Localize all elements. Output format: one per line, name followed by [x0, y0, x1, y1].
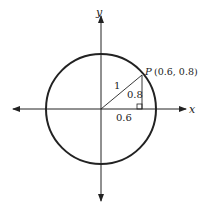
point-coords-label: (0.6, 0.8)	[154, 66, 198, 77]
point-name-label: P	[144, 66, 152, 77]
horizontal-label: 0.6	[116, 112, 132, 123]
vertical-label: 0.8	[127, 89, 143, 100]
x-axis-label: x	[189, 103, 196, 116]
y-axis-label: y	[95, 6, 103, 19]
unit-circle-diagram: y x P (0.6, 0.8) 1 0.8 0.6	[0, 0, 206, 206]
right-angle-marker	[137, 104, 142, 109]
radius-label: 1	[114, 80, 120, 91]
